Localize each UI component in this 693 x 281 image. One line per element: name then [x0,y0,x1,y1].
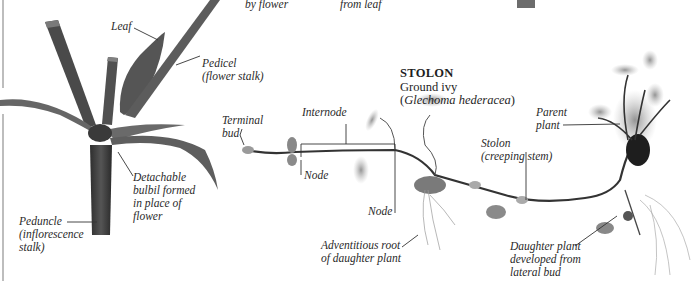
label-stolon: Stolon (creeping stem) [481,137,552,163]
label-node-2: Node [368,205,392,218]
label-internode: Internode [302,106,347,119]
photo-fragment [517,0,535,8]
label-node-1: Node [304,169,328,182]
plant-propagation-diagram: by flower from leaf Leaf Pedicel (flower… [0,0,693,281]
label-peduncle: Peduncle (inflorescence stalk) [19,215,84,254]
stolon-scientific-name: (Glechoma hederacea) [400,94,515,108]
caption-fragment-by-flower: by flower [245,0,288,11]
caption-fragment-from-leaf: from leaf [340,0,381,11]
label-leaf: Leaf [111,20,131,33]
label-pedicel: Pedicel (flower stalk) [202,57,264,83]
stolon-title-block: STOLON Ground ivy (Glechoma hederacea) [400,67,515,108]
label-terminal-bud: Terminal bud [222,114,263,140]
label-adventitious-root: Adventitious root of daughter plant [321,239,401,265]
stolon-heading: STOLON [400,67,515,81]
label-parent-plant: Parent plant [536,106,567,132]
label-detachable-bulbil: Detachable bulbil formed in place of flo… [133,171,195,223]
stolon-common-name: Ground ivy [400,81,515,95]
label-daughter-plant: Daughter plant developed from lateral bu… [510,240,581,279]
